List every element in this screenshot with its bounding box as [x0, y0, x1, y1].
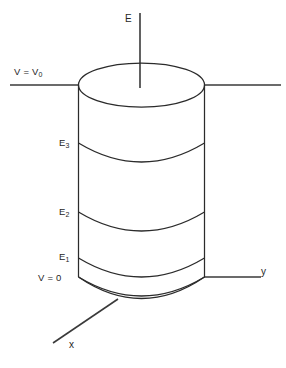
band-label-e2-text: E	[59, 206, 66, 217]
axis-e-label-text: E	[125, 13, 132, 24]
band-arc-e3	[79, 143, 205, 162]
axis-x-label: x	[69, 339, 74, 350]
band-label-e3-text: E	[59, 137, 66, 148]
cylinder-bottom-arc	[79, 277, 205, 299]
band-label-e3: E3	[59, 137, 69, 148]
v-top-text: V = V	[14, 66, 39, 77]
axis-e-label: E	[125, 13, 132, 24]
axis-x-line	[53, 299, 118, 343]
v-bottom-text: V = 0	[38, 272, 61, 283]
boundary-condition-top-label: V = V0	[14, 66, 42, 77]
band-arc-e2	[79, 212, 205, 231]
band-arc-e1	[79, 258, 205, 277]
cylinder-potential-diagram: E y x V = V0 V = 0 E3 E2 E1	[0, 0, 286, 368]
cylinder-top-ellipse	[79, 63, 205, 107]
axis-y-label: y	[261, 266, 266, 277]
band-arc-v0	[79, 277, 205, 296]
boundary-condition-bottom-label: V = 0	[38, 272, 61, 283]
band-label-e1-text: E	[59, 251, 66, 262]
band-label-e3-subscript: 3	[66, 142, 70, 149]
band-label-e1-subscript: 1	[66, 256, 70, 263]
axis-x-label-text: x	[69, 339, 74, 350]
axis-y-label-text: y	[261, 266, 266, 277]
diagram-canvas	[0, 0, 286, 368]
v-top-subscript: 0	[39, 71, 43, 78]
band-label-e2-subscript: 2	[66, 211, 70, 218]
band-label-e2: E2	[59, 206, 69, 217]
band-label-e1: E1	[59, 251, 69, 262]
